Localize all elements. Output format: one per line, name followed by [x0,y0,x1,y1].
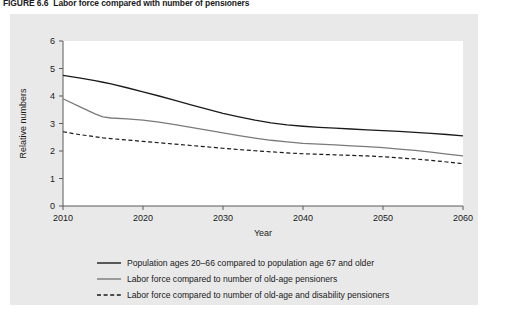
legend-label-3: Labor force compared to number of old-ag… [127,290,389,300]
legend-label-2: Labor force compared to number of old-ag… [127,274,337,284]
x-tick-label: 2020 [133,213,153,223]
x-tick-label: 2040 [293,213,313,223]
y-tick-label: 1 [50,174,55,184]
y-tick-label: 6 [50,36,55,46]
y-axis-title: Relative numbers [18,88,28,159]
x-tick-label: 2050 [373,213,393,223]
y-tick-label: 3 [50,119,55,129]
line-chart: 0123456201020202030204020502060YearRelat… [0,0,514,317]
legend-label-1: Population ages 20–66 compared to popula… [127,258,374,268]
x-tick-label: 2030 [213,213,233,223]
y-tick-label: 5 [50,64,55,74]
y-tick-label: 0 [50,201,55,211]
x-tick-label: 2010 [53,213,73,223]
x-tick-label: 2060 [453,213,473,223]
plot-area-background [63,41,463,206]
x-axis-title: Year [254,228,272,238]
y-tick-label: 2 [50,146,55,156]
y-tick-label: 4 [50,91,55,101]
chart-legend: Population ages 20–66 compared to popula… [97,258,389,300]
